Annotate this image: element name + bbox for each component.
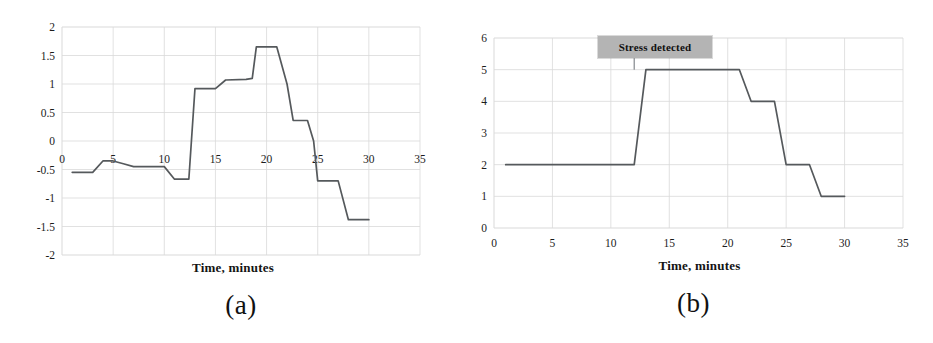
x-tick-label: 5	[110, 153, 116, 165]
y-tick-label: 2	[49, 21, 55, 33]
y-tick-label: 1.5	[41, 50, 56, 62]
chart-a-x-tick-labels: 05101520253035	[59, 153, 426, 165]
chart-a-x-axis-label: Time, minutes	[0, 260, 466, 276]
y-tick-label: -0.5	[37, 164, 55, 176]
x-tick-label: 30	[363, 153, 375, 165]
chart-panel-a: 05101520253035 -2-1.5-1-0.500.511.52 Tim…	[0, 0, 466, 343]
y-tick-label: 3	[481, 127, 487, 139]
chart-b-gridlines	[494, 38, 903, 228]
y-tick-label: 1	[481, 190, 487, 202]
chart-a-caption: (a)	[8, 290, 474, 321]
y-tick-label: 1	[49, 78, 55, 90]
y-tick-label: 0	[49, 135, 55, 147]
x-tick-label: 25	[780, 237, 792, 249]
y-tick-label: 6	[481, 32, 487, 44]
chart-b-caption: (b)	[460, 288, 927, 319]
figure-container: 05101520253035 -2-1.5-1-0.500.511.52 Tim…	[0, 0, 933, 343]
chart-a-data-line	[72, 47, 369, 220]
y-tick-label: -1.5	[37, 221, 55, 233]
y-tick-label: 0.5	[41, 107, 56, 119]
x-tick-label: 35	[897, 237, 909, 249]
x-tick-label: 35	[414, 153, 426, 165]
chart-a-y-tick-labels: -2-1.5-1-0.500.511.52	[37, 21, 55, 261]
y-tick-label: 4	[481, 95, 487, 107]
x-tick-label: 5	[550, 237, 556, 249]
chart-panel-b: 05101520253035 0123456 Stress detected T…	[466, 0, 933, 343]
y-tick-label: -1	[45, 192, 55, 204]
x-tick-label: 30	[839, 237, 851, 249]
chart-a-gridlines	[62, 27, 420, 255]
y-tick-label: 5	[481, 64, 487, 76]
x-tick-label: 10	[605, 237, 617, 249]
x-tick-label: 20	[722, 237, 734, 249]
x-tick-label: 0	[59, 153, 65, 165]
stress-detected-annotation: Stress detected	[598, 36, 712, 58]
x-tick-label: 25	[312, 153, 324, 165]
x-tick-label: 20	[261, 153, 273, 165]
y-tick-label: 2	[481, 159, 487, 171]
y-tick-label: 0	[481, 222, 487, 234]
x-tick-label: 15	[210, 153, 222, 165]
x-tick-label: 0	[491, 237, 497, 249]
chart-b-x-axis-label: Time, minutes	[466, 258, 933, 274]
chart-b-x-tick-labels: 05101520253035	[491, 237, 909, 249]
chart-b-y-tick-labels: 0123456	[481, 32, 487, 234]
x-tick-label: 10	[159, 153, 171, 165]
x-tick-label: 15	[664, 237, 676, 249]
